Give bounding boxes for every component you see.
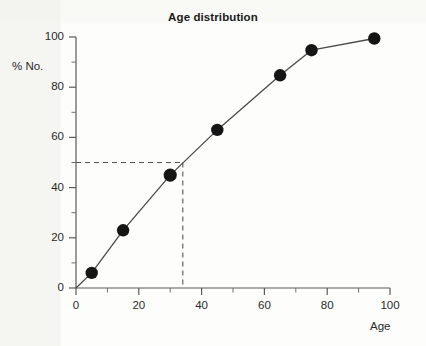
data-point[interactable] (86, 267, 98, 279)
y-tick-label-100: 100 (22, 30, 64, 42)
x-tick-label-0: 0 (56, 299, 96, 311)
y-tick-label-0: 0 (22, 281, 64, 293)
y-axis-minor-ticks (72, 62, 77, 263)
data-point[interactable] (305, 44, 317, 56)
data-series-line (76, 39, 374, 289)
y-axis-title: % No. (12, 60, 43, 72)
data-point[interactable] (368, 32, 380, 44)
x-tick-label-100: 100 (370, 299, 410, 311)
x-tick-label-40: 40 (182, 299, 222, 311)
chart-container: Age distribution (0, 0, 426, 346)
x-axis-minor-ticks (107, 288, 358, 293)
data-point[interactable] (117, 224, 129, 236)
chart-plot-area (0, 0, 426, 346)
x-axis-title: Age (370, 320, 390, 332)
data-point[interactable] (211, 124, 223, 136)
y-tick-label-60: 60 (22, 130, 64, 142)
data-point-markers (86, 32, 381, 279)
data-point[interactable] (274, 69, 286, 81)
y-tick-label-40: 40 (22, 181, 64, 193)
x-tick-label-60: 60 (244, 299, 284, 311)
data-point[interactable] (164, 169, 177, 182)
x-tick-label-20: 20 (119, 299, 159, 311)
y-tick-label-80: 80 (22, 80, 64, 92)
x-tick-label-80: 80 (307, 299, 347, 311)
y-tick-label-20: 20 (22, 231, 64, 243)
